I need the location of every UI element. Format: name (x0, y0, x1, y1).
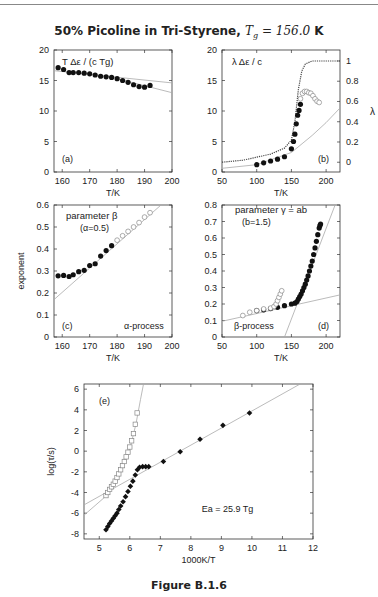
y-tick-label: -4 (71, 488, 79, 498)
data-point (318, 221, 323, 226)
y-tick-label: 0 (44, 167, 49, 177)
panel-title: T Δε / (c Tg) (62, 56, 113, 67)
data-point (311, 252, 316, 257)
x-tick-label: 160 (55, 341, 70, 351)
y-tick-label: -8 (71, 529, 79, 539)
data-point (71, 70, 76, 75)
y-tick-label: 0.2 (204, 299, 217, 309)
data-point (124, 455, 128, 459)
data-point (120, 463, 124, 467)
data-point (128, 445, 132, 449)
x-tick-label: 200 (164, 341, 179, 351)
data-point (82, 71, 87, 76)
x-tick-label: 5 (97, 543, 102, 553)
data-point (261, 160, 266, 165)
data-point (93, 261, 98, 266)
data-point (104, 74, 109, 79)
y2-tick-label: 0.8 (346, 76, 359, 86)
data-point (76, 70, 81, 75)
fit-line (84, 384, 144, 515)
axes-frame (84, 384, 313, 539)
data-point (282, 303, 287, 308)
y2-tick-label: 0.6 (346, 96, 359, 106)
x-tick-label: 160 (55, 176, 70, 186)
x-tick-label: 9 (219, 543, 224, 553)
data-point (131, 82, 136, 87)
x-tick-label: 8 (188, 543, 193, 553)
x-tick-label: 180 (110, 341, 125, 351)
data-point (98, 253, 103, 258)
data-point (310, 259, 315, 264)
x-tick-label: 190 (137, 341, 152, 351)
data-point (275, 157, 280, 162)
figure-caption: Figure B.1.6 (0, 579, 378, 592)
data-point (104, 248, 109, 253)
x-tick-label: 150 (284, 176, 299, 186)
y2-tick-label: 0.4 (346, 117, 359, 127)
data-point (295, 113, 300, 118)
data-point (279, 288, 284, 293)
data-point (123, 494, 129, 500)
x-tick-label: 10 (247, 543, 257, 553)
axes-frame (54, 205, 172, 337)
data-point (131, 225, 136, 230)
data-point (136, 84, 141, 89)
data-point (142, 215, 147, 220)
x-tick-label: 12 (308, 543, 318, 553)
y-tick-label: -6 (71, 508, 79, 518)
x-tick-label: 200 (319, 176, 334, 186)
y-tick-label: 2 (74, 426, 79, 436)
y-tick-label: 15 (39, 76, 49, 86)
data-point (254, 308, 259, 313)
fit-line (222, 61, 340, 162)
data-point (125, 489, 131, 495)
y-tick-label: 5 (212, 137, 217, 147)
x-axis-label: T/K (106, 353, 120, 363)
y-tick-label: 0.6 (36, 200, 49, 210)
data-point (118, 468, 122, 472)
data-point (61, 273, 66, 278)
data-point (146, 464, 152, 470)
y-tick-label: 0.4 (204, 266, 217, 276)
data-point (298, 96, 303, 101)
fit-line (84, 377, 313, 505)
y-tick-label: 0.1 (36, 310, 49, 320)
y-tick-label: 0.2 (36, 288, 49, 298)
panel-subtitle: (α=0.5) (80, 223, 109, 233)
y2-tick-label: 1 (346, 56, 351, 66)
panel-a: 16017018019020005101520T/KT Δε / (c Tg)(… (39, 45, 180, 198)
data-point (240, 313, 245, 318)
data-point (315, 232, 320, 237)
y-axis-label: log(τ/s) (46, 447, 56, 476)
data-point (71, 272, 76, 277)
data-point (117, 472, 121, 476)
data-point (135, 411, 139, 415)
y2-axis-label: λ (370, 106, 375, 117)
data-point (254, 162, 259, 167)
panel-title: parameter β (66, 210, 118, 221)
data-point (56, 273, 61, 278)
data-point (131, 431, 135, 435)
y-tick-label: 15 (207, 76, 217, 86)
y-tick-label: 0.5 (36, 222, 49, 232)
plot-area (222, 205, 340, 337)
panel-subtitle: (b=1.5) (242, 217, 271, 227)
panel-label: (d) (318, 321, 329, 331)
panel-label: (b) (318, 154, 329, 164)
x-tick-label: 150 (284, 341, 299, 351)
data-point (115, 76, 120, 81)
panel-annotation: α-process (124, 321, 164, 331)
y-tick-label: 20 (207, 45, 217, 55)
data-point (82, 268, 87, 273)
data-point (115, 238, 120, 243)
x-tick-label: 170 (82, 176, 97, 186)
panel-label: (e) (99, 396, 110, 406)
figure-canvas: 16017018019020005101520T/KT Δε / (c Tg)(… (0, 0, 378, 597)
data-point (317, 100, 322, 105)
data-point (98, 74, 103, 79)
panel-c: 16017018019020000.10.20.30.40.50.6T/Kexp… (16, 200, 180, 363)
data-point (126, 229, 131, 234)
data-point (56, 65, 61, 70)
y-tick-label: 0.7 (204, 217, 217, 227)
data-point (126, 450, 130, 454)
